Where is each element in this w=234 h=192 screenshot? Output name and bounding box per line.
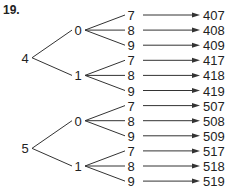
branch-edge — [85, 121, 125, 136]
branch-edge — [85, 75, 125, 90]
leaf-digit: 8 — [127, 114, 134, 129]
arrowhead-icon — [192, 28, 200, 33]
result-number: 519 — [203, 174, 225, 189]
leaf-digit: 8 — [127, 68, 134, 83]
arrowhead-icon — [192, 58, 200, 63]
arrowhead-icon — [192, 73, 200, 78]
arrowhead-icon — [192, 133, 200, 138]
result-number: 417 — [203, 53, 225, 68]
branch-digit: 0 — [74, 23, 81, 38]
branch-edge — [85, 106, 125, 121]
root-edge — [32, 148, 72, 166]
root-edge — [32, 30, 72, 58]
result-number: 507 — [203, 99, 225, 114]
result-number: 407 — [203, 8, 225, 23]
tree-nodes: 7407840894090741784189419147507850895090… — [21, 8, 224, 189]
branch-edge — [85, 166, 125, 181]
arrowhead-icon — [192, 103, 200, 108]
branch-edge — [85, 15, 125, 30]
branch-edge — [85, 60, 125, 75]
result-number: 518 — [203, 159, 225, 174]
branch-edge — [85, 151, 125, 166]
arrowhead-icon — [192, 13, 200, 18]
root-edge — [32, 121, 72, 149]
branch-digit: 0 — [74, 114, 81, 129]
tree-diagram: 19. 740784089409074178418941914750785089… — [0, 0, 234, 192]
arrowhead-icon — [192, 88, 200, 93]
root-digit: 4 — [21, 51, 28, 66]
branch-digit: 1 — [74, 159, 81, 174]
leaf-digit: 9 — [127, 84, 134, 99]
leaf-digit: 9 — [127, 174, 134, 189]
tree-edges — [32, 13, 200, 184]
arrowhead-icon — [192, 164, 200, 169]
leaf-digit: 7 — [127, 144, 134, 159]
result-number: 418 — [203, 68, 225, 83]
leaf-digit: 9 — [127, 38, 134, 53]
result-number: 409 — [203, 38, 225, 53]
result-number: 509 — [203, 129, 225, 144]
branch-edge — [85, 30, 125, 45]
leaf-digit: 9 — [127, 129, 134, 144]
leaf-digit: 8 — [127, 23, 134, 38]
root-digit: 5 — [21, 141, 28, 156]
problem-number: 19. — [3, 3, 20, 17]
leaf-digit: 7 — [127, 99, 134, 114]
arrowhead-icon — [192, 118, 200, 123]
root-edge — [32, 58, 72, 76]
leaf-digit: 8 — [127, 159, 134, 174]
leaf-digit: 7 — [127, 53, 134, 68]
leaf-digit: 7 — [127, 8, 134, 23]
arrowhead-icon — [192, 148, 200, 153]
result-number: 408 — [203, 23, 225, 38]
arrowhead-icon — [192, 179, 200, 184]
result-number: 508 — [203, 114, 225, 129]
arrowhead-icon — [192, 43, 200, 48]
result-number: 419 — [203, 84, 225, 99]
branch-digit: 1 — [74, 68, 81, 83]
result-number: 517 — [203, 144, 225, 159]
